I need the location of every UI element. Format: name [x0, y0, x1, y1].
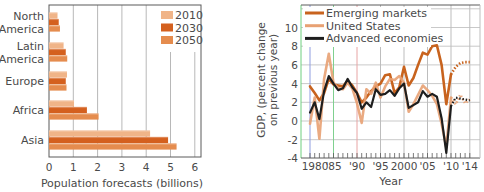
gdp-line-chart: Emerging marketsUnited StatesAdvanced ec…: [255, 5, 480, 188]
bar-highlight: [49, 130, 150, 131]
category-label: America: [0, 23, 44, 36]
bar-highlight: [49, 100, 74, 101]
category-label: Latin: [17, 40, 44, 53]
legend-label: Advanced economies: [326, 32, 444, 45]
y-tick-label: 0: [291, 115, 298, 127]
bar-highlight: [49, 55, 67, 56]
x-tick-label: 2: [94, 161, 101, 173]
legend-label: Emerging markets: [326, 7, 427, 20]
x-tick-label: 2000: [391, 160, 418, 172]
y-tick-label: 4: [291, 78, 298, 90]
bar-highlight: [49, 19, 59, 20]
category-label: Asia: [21, 134, 44, 147]
population-bar-chart: NorthAmericaLatinAmericaEuropeAfricaAsia…: [0, 5, 203, 190]
legend-swatch-2010: [161, 11, 173, 19]
y-axis-title: on previous year): [267, 34, 279, 126]
bar-highlight: [49, 71, 67, 72]
series-forecast-0: [451, 62, 470, 74]
x-tick-label: 1: [70, 161, 77, 173]
bar-highlight: [49, 42, 64, 43]
bar-highlight: [49, 84, 66, 85]
bar-highlight: [49, 12, 58, 13]
x-tick-label: 4: [143, 161, 150, 173]
chart-canvas: NorthAmericaLatinAmericaEuropeAfricaAsia…: [0, 0, 484, 192]
category-label: North: [13, 10, 44, 23]
category-label: America: [0, 53, 44, 66]
x-tick-label: '95: [372, 160, 388, 172]
legend-label: 2030: [175, 22, 203, 35]
x-tick-label: '10: [443, 160, 459, 172]
y-tick-label: -2: [288, 134, 298, 146]
bar-highlight: [49, 137, 168, 138]
bar-highlight: [49, 49, 66, 50]
bar-highlight: [49, 143, 177, 144]
x-tick-label: '14: [462, 160, 479, 172]
bar-highlight: [49, 25, 60, 26]
y-tick-label: 10: [285, 22, 298, 34]
x-tick-label: '85: [325, 160, 341, 172]
x-tick-label: 1980: [302, 160, 329, 172]
y-tick-label: 6: [291, 59, 298, 71]
y-tick-label: 8: [291, 40, 298, 52]
category-label: Africa: [13, 104, 44, 117]
category-label: Europe: [5, 75, 44, 88]
bar-highlight: [49, 107, 87, 108]
y-tick-label: -4: [288, 152, 299, 164]
x-tick-label: 3: [119, 161, 126, 173]
legend-swatch-2050: [161, 36, 173, 44]
x-tick-label: 6: [191, 161, 198, 173]
legend-label: 2050: [175, 34, 203, 47]
x-tick-label: '05: [419, 160, 435, 172]
x-tick-label: 0: [46, 161, 53, 173]
legend-label: United States: [326, 20, 401, 33]
bar-highlight: [49, 113, 99, 114]
x-axis-title: Year: [378, 175, 403, 188]
y-axis-title: GDP, (percent change: [255, 22, 267, 138]
legend-swatch-2030: [161, 24, 173, 32]
y-tick-label: 2: [291, 96, 298, 108]
x-tick-label: '90: [349, 160, 365, 172]
bar-highlight: [49, 78, 66, 79]
x-axis-title: Population forecasts (billions): [41, 177, 203, 190]
legend-label: 2010: [175, 9, 203, 22]
x-tick-label: 5: [167, 161, 174, 173]
